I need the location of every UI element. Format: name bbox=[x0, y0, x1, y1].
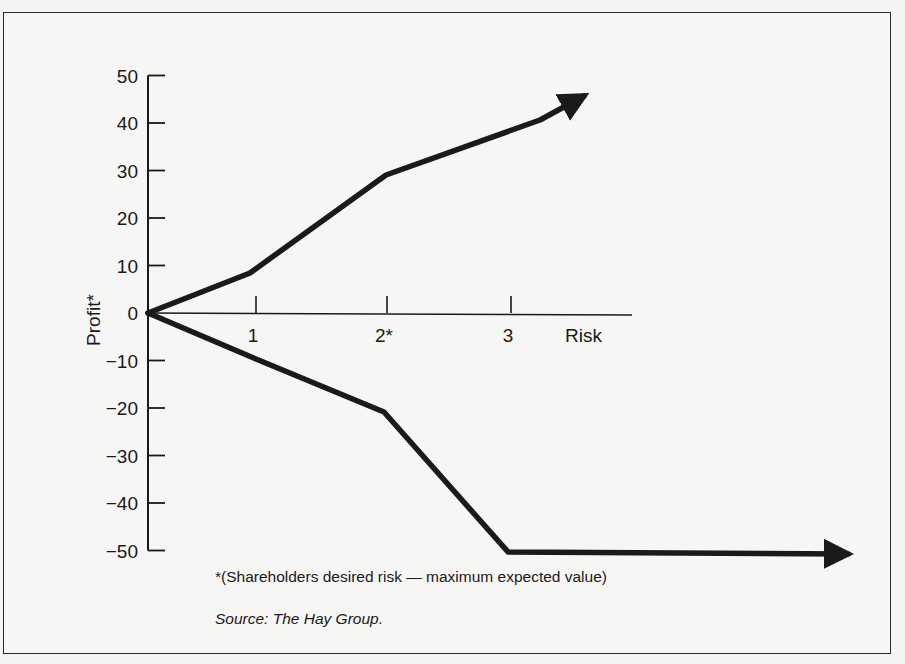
x-axis bbox=[148, 313, 632, 315]
y-tick-label: 20 bbox=[117, 208, 138, 229]
footnote: *(Shareholders desired risk — maximum ex… bbox=[215, 568, 607, 586]
x-tick-label: 2* bbox=[375, 325, 394, 346]
x-tick-label: 3 bbox=[503, 325, 514, 346]
y-tick-label: −30 bbox=[106, 446, 138, 467]
y-tick-label: 40 bbox=[117, 113, 138, 134]
y-tick-label: −40 bbox=[106, 493, 138, 514]
upside-line bbox=[148, 96, 584, 313]
y-tick-label: −20 bbox=[106, 398, 138, 419]
risk-profit-chart: 50403020100−10−20−30−40−5012*3RiskProfit… bbox=[0, 0, 905, 664]
x-axis-title: Risk bbox=[565, 325, 602, 346]
y-tick-label: −10 bbox=[106, 351, 138, 372]
x-tick-label: 1 bbox=[248, 325, 259, 346]
source-credit: Source: The Hay Group. bbox=[215, 610, 383, 628]
y-axis-title: Profit* bbox=[83, 294, 104, 346]
y-tick-label: 10 bbox=[117, 256, 138, 277]
y-tick-label: 50 bbox=[117, 66, 138, 87]
y-tick-label: −50 bbox=[106, 541, 138, 562]
y-tick-label: 30 bbox=[117, 161, 138, 182]
downside-line bbox=[148, 313, 848, 554]
y-tick-label: 0 bbox=[127, 303, 138, 324]
axes: 50403020100−10−20−30−40−5012*3RiskProfit… bbox=[83, 66, 632, 562]
